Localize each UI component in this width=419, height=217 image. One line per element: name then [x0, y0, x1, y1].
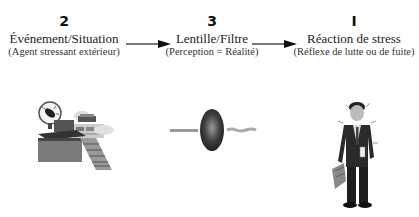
businessman-icon — [332, 97, 392, 213]
stage-number: 3 — [150, 13, 274, 29]
stage-subtitle: (Réflexe de lutte ou de fuite) — [288, 46, 419, 58]
stage-number: 2 — [0, 13, 128, 29]
stage-lens: 3 Lentille/Filtre (Perception = Réalité) — [150, 13, 274, 58]
stage-reaction: I Réaction de stress (Réflexe de lutte o… — [288, 13, 419, 58]
office-desk-icon — [36, 100, 118, 172]
lens-icon — [170, 108, 260, 154]
stage-subtitle: (Agent stressant extérieur) — [0, 46, 128, 58]
stage-number: I — [288, 13, 419, 29]
stage-title: Événement/Situation — [0, 31, 128, 46]
stage-event: 2 Événement/Situation (Agent stressant e… — [0, 13, 128, 58]
stage-title: Réaction de stress — [288, 31, 419, 46]
